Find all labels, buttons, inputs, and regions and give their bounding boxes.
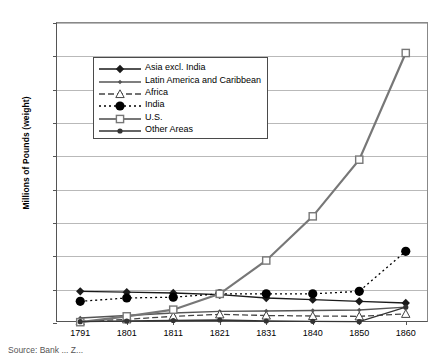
- legend-symbol: [98, 86, 142, 98]
- legend-symbol: [98, 123, 142, 135]
- legend-item[interactable]: Other Areas: [98, 123, 261, 135]
- legend-item[interactable]: U.S.: [98, 111, 261, 123]
- data-point: [310, 319, 315, 324]
- legend-item[interactable]: India: [98, 98, 261, 110]
- data-point: [309, 213, 316, 220]
- legend-label: Africa: [142, 87, 168, 97]
- legend-symbol: [98, 98, 142, 110]
- data-point: [356, 156, 363, 163]
- data-point: [263, 257, 270, 264]
- legend-label: Latin America and Caribbean: [142, 75, 261, 85]
- data-point: [262, 289, 271, 298]
- chart-container: Millions of Pounds (weight) 020040060080…: [0, 0, 438, 358]
- data-point: [122, 293, 131, 302]
- legend-symbol: [98, 111, 142, 123]
- data-point: [118, 79, 122, 83]
- data-point: [402, 310, 410, 318]
- data-point: [217, 317, 222, 322]
- data-point: [355, 297, 363, 305]
- data-point: [401, 247, 410, 256]
- data-point: [76, 287, 84, 295]
- data-point: [216, 290, 223, 297]
- data-point: [78, 319, 83, 324]
- data-point: [171, 318, 176, 323]
- data-point: [402, 49, 409, 56]
- source-caption: Source: Bank ... Z...: [8, 345, 428, 357]
- data-point: [76, 297, 85, 306]
- legend-item[interactable]: Asia excl. India: [98, 61, 261, 73]
- legend-symbol: [98, 61, 142, 73]
- y-axis-title: Millions of Pounds (weight): [21, 73, 31, 233]
- data-point: [403, 305, 408, 310]
- data-point: [116, 65, 124, 73]
- data-point: [124, 318, 129, 323]
- data-point: [117, 129, 122, 134]
- legend-label: U.S.: [142, 112, 163, 122]
- legend-item[interactable]: Africa: [98, 86, 261, 98]
- legend-label: Asia excl. India: [142, 62, 206, 72]
- x-tick-label: 1860: [376, 328, 436, 338]
- data-point: [308, 289, 317, 298]
- legend-symbol: [98, 74, 142, 86]
- legend-label: India: [142, 99, 165, 109]
- data-point: [355, 287, 364, 296]
- y-tick-mark: [53, 323, 57, 324]
- legend-item[interactable]: Latin America and Caribbean: [98, 73, 261, 85]
- chart-legend: Asia excl. IndiaLatin America and Caribb…: [93, 57, 268, 139]
- data-point: [357, 319, 362, 324]
- data-point: [116, 115, 123, 122]
- legend-label: Other Areas: [142, 124, 193, 134]
- data-point: [264, 318, 269, 323]
- data-point: [169, 293, 178, 302]
- data-point: [115, 102, 124, 111]
- data-point: [170, 306, 177, 313]
